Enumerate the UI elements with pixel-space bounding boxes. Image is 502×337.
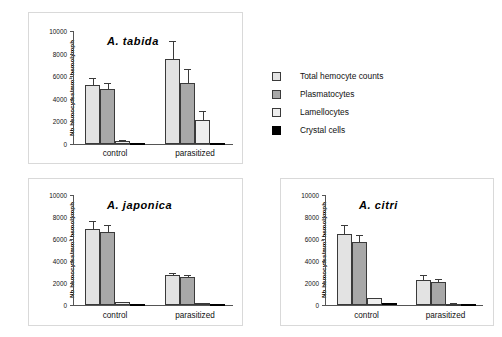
legend-swatch	[272, 72, 281, 81]
bar	[461, 304, 476, 306]
bar	[337, 234, 352, 306]
legend-label: Total hemocyte counts	[300, 71, 383, 81]
error-bar-cap	[450, 303, 457, 304]
chart-panel-citri: Nb hemocytes/mm³ hemolymph02000400060008…	[280, 178, 494, 326]
bar	[100, 232, 115, 305]
error-bar	[108, 225, 109, 232]
error-bar-cap	[199, 111, 206, 112]
y-axis-tick-label: 6000	[281, 236, 319, 243]
plot-area-citri: Nb hemocytes/mm³ hemolymph02000400060008…	[281, 179, 493, 325]
bar	[210, 304, 225, 306]
x-axis-category-label: parasitized	[175, 311, 215, 320]
error-bar	[203, 111, 204, 119]
y-axis-tick-label: 10000	[29, 28, 67, 35]
legend-swatch	[272, 90, 281, 99]
error-bar	[93, 78, 94, 85]
x-axis-category-label: control	[103, 311, 128, 320]
bar	[85, 229, 100, 305]
legend-item: Lamellocytes	[272, 104, 349, 120]
bar	[85, 85, 100, 144]
error-bar-cap	[420, 275, 427, 276]
plot-area-japonica: Nb hemocytes/mm³ hemolymph02000400060008…	[29, 179, 242, 325]
legend-label: Plasmatocytes	[300, 89, 354, 99]
error-bar-cap	[199, 303, 206, 304]
y-axis-line	[73, 31, 74, 145]
bar	[210, 143, 225, 145]
bar	[180, 277, 195, 305]
bar	[115, 141, 130, 144]
error-bar-cap	[169, 273, 176, 274]
error-bar-cap	[184, 275, 191, 276]
bar	[195, 120, 210, 144]
error-bar-cap	[89, 221, 96, 222]
error-bar	[93, 221, 94, 229]
y-axis-tick-label: 4000	[29, 258, 67, 265]
panel-title: A. japonica	[107, 199, 172, 211]
error-bar	[359, 235, 360, 243]
bar	[367, 298, 382, 305]
bar	[130, 143, 145, 145]
error-bar	[173, 41, 174, 59]
chart-panel-japonica: Nb hemocytes/mm³ hemolymph02000400060008…	[28, 178, 243, 326]
error-bar	[344, 225, 345, 233]
y-axis-tick-label: 8000	[29, 50, 67, 57]
bar	[431, 282, 446, 305]
legend-label: Crystal cells	[300, 125, 345, 135]
y-axis-tick-label: 4000	[29, 95, 67, 102]
bar	[165, 59, 180, 144]
error-bar-cap	[356, 235, 363, 236]
bar	[180, 83, 195, 144]
x-axis-category-label: parasitized	[175, 149, 215, 158]
y-axis-tick-label: 10000	[29, 192, 67, 199]
bar	[352, 242, 367, 305]
legend-swatch	[272, 108, 281, 117]
y-axis-tick-label: 0	[29, 141, 67, 148]
y-axis-tick-label: 8000	[281, 214, 319, 221]
y-axis-tick-label: 10000	[281, 192, 319, 199]
plot-area-tabida: Nb hemocytes/mm³ hemolymph02000400060008…	[29, 13, 242, 163]
y-axis-line	[73, 195, 74, 306]
error-bar-cap	[119, 302, 126, 303]
x-axis-line	[73, 144, 233, 145]
y-axis-tick-label: 6000	[29, 236, 67, 243]
legend-item: Total hemocyte counts	[272, 68, 383, 84]
x-axis-category-label: control	[354, 311, 379, 320]
y-axis-tick-label: 2000	[281, 280, 319, 287]
error-bar-cap	[119, 140, 126, 141]
y-axis-tick-label: 0	[281, 302, 319, 309]
y-axis-tick-label: 0	[29, 302, 67, 309]
bar	[165, 275, 180, 305]
y-axis-tick-label: 2000	[29, 280, 67, 287]
error-bar-cap	[435, 279, 442, 280]
error-bar-cap	[371, 298, 378, 299]
y-axis-tick-label: 8000	[29, 214, 67, 221]
bar	[100, 89, 115, 144]
x-axis-category-label: parasitized	[426, 311, 466, 320]
error-bar-cap	[89, 78, 96, 79]
error-bar-cap	[104, 225, 111, 226]
legend-swatch	[272, 126, 281, 135]
y-axis-tick-label: 6000	[29, 73, 67, 80]
legend-item: Plasmatocytes	[272, 86, 354, 102]
error-bar	[188, 69, 189, 83]
chart-panel-tabida: Nb hemocytes/mm³ hemolymph02000400060008…	[28, 12, 243, 164]
legend: Total hemocyte countsPlasmatocytesLamell…	[272, 68, 452, 146]
error-bar-cap	[104, 83, 111, 84]
y-axis-tick-label: 4000	[281, 258, 319, 265]
error-bar-cap	[184, 69, 191, 70]
x-axis-category-label: control	[103, 149, 128, 158]
panel-title: A. citri	[359, 199, 398, 211]
legend-item: Crystal cells	[272, 122, 345, 138]
bar	[130, 304, 145, 306]
error-bar-cap	[169, 41, 176, 42]
legend-label: Lamellocytes	[300, 107, 349, 117]
error-bar-cap	[341, 225, 348, 226]
y-axis-line	[325, 195, 326, 306]
bar	[382, 303, 397, 305]
y-axis-tick-label: 2000	[29, 118, 67, 125]
bar	[416, 280, 431, 305]
panel-title: A. tabida	[107, 35, 159, 47]
bar	[115, 302, 130, 305]
